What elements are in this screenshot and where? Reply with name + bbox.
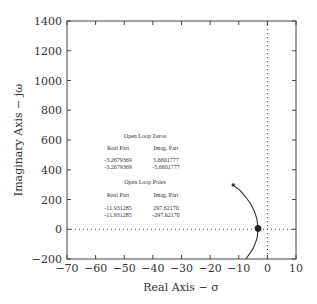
zeros-row-2-imag: -5.6601777 [152,164,180,170]
zero-marker [255,225,261,231]
zeros-header-imag: Imag. Part [154,145,179,151]
plot-frame [67,21,296,259]
y-tick-label: 1000 [34,75,62,88]
annotation-block: Open Loop Zeros Real Part Imag. Part -3.… [104,133,180,218]
x-tick-label: −40 [141,262,164,275]
zeros-row-2-real: -3.2679369 [104,164,132,170]
pole-marker [232,183,235,186]
poles-row-1-real: -11.931285 [104,205,131,211]
x-tick-label: 10 [289,262,303,275]
y-tick-label: 200 [41,194,62,207]
zeros-title: Open Loop Zeros [124,133,167,139]
x-axis-ticks: −70−60−50−40−30−20−10010 [55,21,303,275]
x-tick-label: −60 [84,262,107,275]
y-tick-label: 400 [41,164,62,177]
x-axis-title: Real Axis − σ [143,281,219,294]
root-locus-curve [233,185,258,259]
x-tick-label: −20 [199,262,222,275]
root-locus-plot: −70−60−50−40−30−20−10010 −20002004006008… [0,0,317,304]
poles-header-imag: Imag. Part [154,192,179,198]
zeros-header-real: Real Part [107,145,129,151]
poles-row-2-imag: -297.62170 [152,212,180,218]
y-tick-label: −200 [32,253,62,266]
x-tick-label: −50 [113,262,136,275]
y-tick-label: 800 [41,104,62,117]
x-tick-label: −30 [170,262,193,275]
y-tick-label: 600 [41,134,62,147]
locus-branch [233,185,258,259]
reference-lines [67,21,296,259]
x-tick-label: 0 [264,262,271,275]
y-axis-title: Imaginary Axis − jω [12,84,25,196]
zeros-row-1-imag: 5.6601777 [153,157,179,163]
pole-zero-markers [232,183,261,231]
y-tick-label: 0 [55,223,62,236]
y-tick-label: 1400 [34,15,62,28]
axes-box [67,21,296,259]
y-tick-label: 1200 [34,45,62,58]
zeros-row-1-real: -3.2679369 [104,157,132,163]
x-tick-label: −10 [227,262,250,275]
poles-row-2-real: -11.931285 [104,212,131,218]
poles-title: Open Loop Poles [124,179,166,185]
poles-header-real: Real Part [107,192,129,198]
poles-row-1-imag: 297.62170 [153,205,179,211]
